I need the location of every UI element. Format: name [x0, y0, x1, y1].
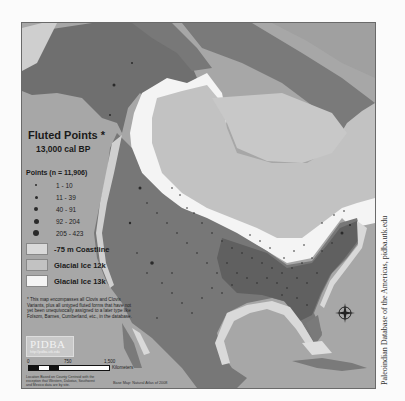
credits-text: Location Based on County Centroid with t…	[26, 375, 96, 388]
scale-bar: 0 750 1,500 Kilometers	[26, 359, 136, 373]
map-frame: Fluted Points * 13,000 cal BP Points (n …	[21, 22, 376, 389]
legend-point-class: 92 - 204	[26, 215, 80, 227]
point-size-4-icon	[34, 219, 39, 224]
point-size-1-icon	[35, 184, 37, 186]
ice-12k-swatch-icon	[26, 259, 48, 271]
legend-area-ice-12k: Glacial Ice 12k	[26, 258, 106, 272]
point-size-5-icon	[33, 230, 39, 236]
point-size-3-icon	[34, 207, 38, 211]
legend-area-ice-13k: Glacial Ice 13k	[26, 274, 106, 288]
legend-area-coastline: -75 m Coastline	[26, 242, 109, 256]
legend-point-class: 11 - 39	[26, 191, 76, 203]
basemap-credit: Base Map: Natural Atlas of 2008	[113, 381, 167, 385]
side-credit: Paleoindian Database of the Americas, pi…	[380, 216, 389, 385]
map-subtitle: 13,000 cal BP	[36, 144, 90, 154]
legend-point-class: 205 - 423	[26, 227, 83, 239]
legend-point-class: 1 - 10	[26, 179, 73, 191]
map-title: Fluted Points *	[28, 129, 105, 141]
ice-13k-swatch-icon	[26, 275, 48, 287]
legend-point-class: 40 - 91	[26, 203, 76, 215]
scale-bar-graphic	[28, 365, 110, 371]
pidba-logo: PIDBA http://pidba.utk.edu	[26, 336, 74, 357]
coastline-swatch-icon	[26, 243, 48, 255]
legend-note: * This map encompasses all Clovis and Cl…	[27, 297, 137, 319]
point-size-2-icon	[35, 196, 38, 199]
compass-rose-icon	[334, 302, 356, 324]
legend-points-title: Points (n = 11,906)	[26, 169, 87, 176]
